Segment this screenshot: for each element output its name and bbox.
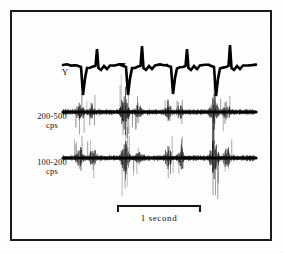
figure-root: Y 200-500 cps 100-200 cps 1 second <box>0 0 283 253</box>
recording-traces <box>0 0 283 253</box>
